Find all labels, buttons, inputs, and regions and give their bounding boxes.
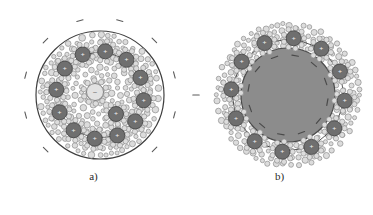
external-minus-sign bbox=[174, 72, 176, 78]
solvent-bead bbox=[229, 56, 234, 61]
solvent-bead bbox=[229, 137, 234, 142]
solvent-bead bbox=[296, 155, 301, 160]
solvent-bead bbox=[52, 54, 56, 58]
solvent-bead bbox=[90, 126, 95, 131]
cation-ion: + bbox=[49, 82, 64, 97]
solvent-bead bbox=[145, 57, 150, 62]
panel-a-micelle-diffuse: +++++++++++++− a) bbox=[0, 0, 187, 215]
solvent-bead bbox=[340, 88, 345, 93]
solvent-bead bbox=[270, 153, 275, 158]
solvent-bead bbox=[235, 126, 240, 131]
solvent-bead bbox=[353, 116, 357, 120]
solvent-bead bbox=[104, 66, 108, 70]
solvent-bead bbox=[99, 80, 104, 85]
solvent-bead bbox=[270, 24, 274, 28]
cation-label: + bbox=[292, 35, 296, 43]
solvent-bead bbox=[123, 85, 128, 90]
cation-ion: + bbox=[119, 52, 134, 67]
solvent-bead bbox=[61, 131, 66, 136]
solvent-bead bbox=[115, 121, 120, 126]
solvent-bead bbox=[345, 114, 351, 120]
solvent-bead bbox=[349, 121, 353, 125]
solvent-bead bbox=[129, 141, 135, 147]
solvent-bead bbox=[115, 79, 121, 85]
solvent-bead bbox=[152, 116, 157, 121]
cation-label: + bbox=[93, 135, 97, 143]
solvent-bead bbox=[104, 92, 109, 97]
solvent-bead bbox=[97, 64, 103, 70]
solvent-bead bbox=[241, 69, 246, 74]
solvent-bead bbox=[249, 31, 253, 35]
solvent-bead bbox=[115, 86, 119, 90]
cation-ion: + bbox=[133, 70, 148, 85]
solvent-bead bbox=[301, 23, 306, 28]
solvent-bead bbox=[86, 99, 91, 104]
solvent-bead bbox=[90, 110, 95, 115]
cation-ion: + bbox=[109, 107, 124, 122]
solvent-bead bbox=[38, 90, 42, 94]
solvent-bead bbox=[141, 87, 146, 92]
solvent-bead bbox=[224, 119, 229, 124]
solvent-bead bbox=[357, 93, 361, 97]
solvent-bead bbox=[337, 48, 342, 53]
solvent-bead bbox=[90, 32, 96, 38]
solvent-bead bbox=[92, 78, 97, 83]
cation-ion: + bbox=[110, 128, 125, 143]
solvent-bead bbox=[246, 47, 250, 51]
solvent-bead bbox=[219, 64, 225, 70]
solvent-bead bbox=[109, 151, 113, 155]
solvent-bead bbox=[60, 46, 64, 50]
solvent-bead bbox=[151, 96, 156, 101]
solvent-bead bbox=[281, 32, 286, 37]
solvent-bead bbox=[281, 39, 286, 44]
solvent-bead bbox=[70, 53, 75, 58]
external-minus-sign bbox=[152, 147, 157, 152]
solvent-bead bbox=[89, 67, 95, 73]
solvent-bead bbox=[293, 26, 298, 31]
solvent-bead bbox=[357, 87, 362, 92]
solvent-bead bbox=[72, 92, 78, 98]
solvent-bead bbox=[84, 113, 90, 119]
solvent-bead bbox=[44, 65, 49, 70]
solvent-bead bbox=[235, 41, 241, 47]
solvent-bead bbox=[272, 44, 277, 49]
solvent-bead bbox=[38, 103, 44, 109]
cation-label: + bbox=[133, 118, 137, 126]
solvent-bead bbox=[355, 107, 360, 112]
solvent-bead bbox=[106, 73, 110, 77]
cation-label: + bbox=[63, 65, 67, 73]
solvent-bead bbox=[81, 86, 86, 91]
solvent-bead bbox=[281, 21, 285, 25]
solvent-bead bbox=[46, 105, 50, 109]
solvent-bead bbox=[222, 73, 227, 78]
solvent-bead bbox=[348, 69, 353, 74]
panel-b-micelle-solid-core: ++++++++++++ b) bbox=[186, 0, 373, 215]
cation-label: + bbox=[253, 138, 257, 146]
solvent-bead bbox=[216, 76, 221, 81]
solvent-bead bbox=[301, 36, 306, 41]
solvent-bead bbox=[150, 62, 155, 67]
solvent-bead bbox=[72, 109, 76, 113]
solvent-bead bbox=[337, 141, 343, 147]
solvent-bead bbox=[46, 123, 50, 127]
solvent-bead bbox=[98, 31, 104, 37]
solvent-bead bbox=[322, 122, 327, 127]
solvent-bead bbox=[115, 151, 119, 155]
cation-ion: + bbox=[337, 93, 352, 108]
panel-b-solid-core bbox=[241, 48, 335, 142]
solvent-bead bbox=[124, 91, 129, 96]
solvent-bead bbox=[233, 140, 238, 145]
solvent-bead bbox=[59, 76, 64, 81]
solvent-bead bbox=[64, 88, 69, 93]
cation-ion: + bbox=[75, 47, 90, 62]
solvent-bead bbox=[333, 136, 338, 141]
solvent-bead bbox=[139, 48, 145, 54]
cation-ion: + bbox=[332, 64, 347, 79]
solvent-bead bbox=[80, 104, 87, 111]
solvent-bead bbox=[154, 75, 160, 81]
solvent-bead bbox=[260, 51, 265, 56]
solvent-bead bbox=[307, 25, 312, 30]
solvent-bead bbox=[244, 116, 249, 121]
solvent-bead bbox=[256, 27, 261, 32]
cation-label: + bbox=[229, 86, 233, 94]
